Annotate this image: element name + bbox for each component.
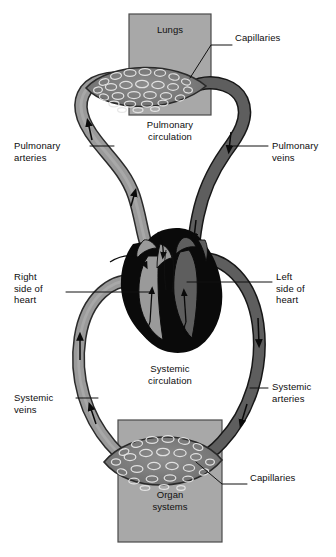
lungs-box-label: Lungs — [129, 24, 211, 36]
systemic-veins-label: Systemic veins — [14, 392, 76, 415]
left-side-of-heart-label: Left side of heart — [276, 271, 332, 306]
capillaries-lungs-label: Capillaries — [235, 32, 280, 44]
figure-canvas: Lungs Organ systems Pulmonary circulatio… — [0, 0, 336, 557]
pulmonary-circulation-label: Pulmonary circulation — [132, 119, 208, 142]
arrow-systemic-artery-down — [258, 318, 259, 344]
capillaries-organs-label: Capillaries — [250, 472, 295, 484]
organ-systems-box-label: Organ systems — [118, 489, 222, 512]
right-side-of-heart-label: Right side of heart — [14, 271, 66, 306]
systemic-arteries-label: Systemic arteries — [272, 381, 334, 404]
pulmonary-arteries-label: Pulmonary arteries — [14, 140, 88, 163]
pulmonary-veins-label: Pulmonary veins — [272, 140, 334, 163]
heart-shape — [110, 228, 222, 353]
systemic-circulation-label: Systemic circulation — [132, 363, 208, 386]
